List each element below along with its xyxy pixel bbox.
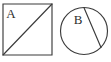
figure-canvas: A B [0,0,111,62]
rectangle-label-a: A [6,6,16,21]
shape-group-circle-b: B [61,8,108,55]
figure-svg: A B [0,0,111,62]
circle-chord-line [84,8,101,48]
shape-group-rectangle-a: A [3,4,52,55]
circle-label-b: B [74,12,83,27]
